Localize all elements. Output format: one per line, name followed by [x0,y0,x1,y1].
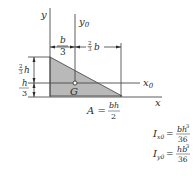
svg-text:3: 3 [186,143,189,149]
arrow-icon [116,46,121,49]
svg-text:h: h [24,65,30,75]
triangle-area [50,57,122,96]
svg-text:3: 3 [88,46,92,52]
x-axis-label: x [155,97,161,108]
svg-text:h: h [22,78,27,88]
arrow-icon [33,78,36,83]
arrow-icon [70,46,75,49]
arrow-icon [33,83,36,88]
arrow-icon [75,46,80,49]
arrow-icon [33,92,36,97]
arrow-icon [33,57,36,62]
y-axis-label: y [40,9,47,20]
centroid-label: G [70,86,78,97]
svg-text:A =: A = [86,105,106,116]
svg-text:x0: x0 [157,133,164,140]
svg-text:bh: bh [109,101,119,110]
svg-text:=: = [166,149,174,159]
svg-text:3: 3 [60,47,66,57]
svg-text:3: 3 [186,123,189,129]
svg-text:36: 36 [178,155,188,164]
area-formula: A = bh 2 [86,101,120,121]
svg-text:2: 2 [111,112,116,121]
y0-axis-label: y0 [78,16,90,29]
centroid-marker [73,81,77,85]
svg-text:b: b [60,35,66,45]
svg-text:3: 3 [19,69,23,75]
svg-text:3: 3 [22,89,27,98]
dim-two-thirds-b: 2 3 b [86,40,104,53]
moment-iy0-formula: I y0 = hb 3 36 [152,143,190,164]
svg-text:y0: y0 [156,153,164,161]
triangle-centroid-diagram: y y0 x x0 G b 3 2 3 b 2 [0,0,196,176]
moment-ix0-formula: I x0 = bh 3 36 [152,123,190,144]
svg-text:=: = [166,129,174,139]
svg-text:b: b [94,42,100,52]
dim-h-over-3: h 3 [19,78,29,98]
arrow-icon [50,46,55,49]
dim-b-over-3: b 3 [57,35,68,57]
x0-axis-label: x0 [143,77,154,90]
dim-two-thirds-h: 2 3 h [19,63,30,75]
